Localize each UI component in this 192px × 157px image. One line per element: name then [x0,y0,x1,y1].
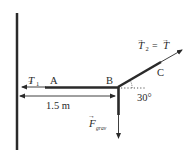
t2-force-arrow [160,50,182,63]
fgrav-subscript: grav [96,125,107,131]
t2-label: → T 2 = → T [137,36,170,52]
angle-label: 30° [137,92,152,103]
point-c-label: C [157,67,164,78]
free-body-diagram: A B C → T 1 → T 2 = → T 30° 1.5 m → F gr… [0,0,192,157]
t1-subscript: 1 [36,80,39,87]
point-b-label: B [106,75,113,86]
t1-label: → T 1 [27,74,39,87]
fgrav-label: → F grav [88,112,107,131]
angle-arc [131,81,133,88]
dimension-label: 1.5 m [46,100,70,111]
point-a-label: A [50,75,58,86]
rod-bc [118,62,161,87]
fgrav-symbol: F [88,117,96,129]
t2-equals: = [152,40,158,51]
t2-rhs-symbol: T [163,39,170,51]
t1-symbol: T [28,74,35,86]
t2-symbol: T [138,39,145,51]
t2-subscript: 2 [146,45,149,52]
